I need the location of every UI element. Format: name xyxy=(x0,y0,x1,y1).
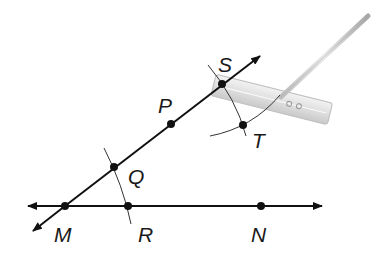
label-T: T xyxy=(252,129,267,152)
point-T xyxy=(239,121,247,129)
label-R: R xyxy=(138,223,153,246)
point-M xyxy=(61,202,69,210)
point-N xyxy=(257,202,265,210)
compass-tool xyxy=(211,16,368,125)
label-N: N xyxy=(251,223,267,246)
label-S: S xyxy=(218,53,232,76)
point-R xyxy=(124,202,132,210)
label-P: P xyxy=(158,94,172,117)
point-P xyxy=(167,120,175,128)
label-M: M xyxy=(54,223,72,246)
point-Q xyxy=(110,163,118,171)
ray-MS-upper xyxy=(65,56,260,206)
label-Q: Q xyxy=(128,165,144,188)
geometry-diagram: M R N Q P S T xyxy=(0,0,381,259)
point-S xyxy=(218,80,226,88)
